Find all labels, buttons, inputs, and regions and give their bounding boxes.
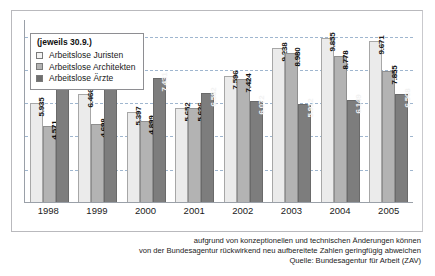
bar-value-label: 5.935 [36,98,47,117]
footnote-line-3: Quelle: Bundesagentur für Arbeit (ZAV) [11,256,421,266]
x-axis-labels: 19981999200020012002200320042005 [24,205,413,216]
x-axis-tick: 2003 [267,205,315,216]
x-axis-tick: 2005 [365,205,413,216]
footnote-line-2: von der Bundesagentur rückwirkend neu au… [11,246,421,256]
bar: 7.424 [237,79,250,203]
bar: 4.899 [140,121,153,203]
bar-value-label: 5.912 [305,98,316,117]
legend-item-aerzte: Arbeitslose Ärzte [36,73,135,83]
footnote-line-1: aufgrund von konzeptionellen und technis… [11,236,421,246]
bar: 7.596 [224,76,237,202]
bar-value-label: 9.855 [327,33,338,52]
bar-group: 5.6525.6366.582 [175,20,214,202]
x-axis-tick: 2001 [170,205,218,216]
bar: 5.912 [298,104,311,202]
bar-value-label: 6.508 [402,88,413,107]
bar: 6.582 [201,93,214,203]
bar-value-label: 6.582 [208,87,219,106]
bar: 9.855 [321,38,334,202]
chart-legend: (jeweils 30.9.) Arbeitslose Juristen Arb… [30,33,144,90]
x-axis-tick: 2004 [316,205,364,216]
chart-footnote: aufgrund von konzeptionellen und technis… [11,236,423,267]
bar: 5.636 [188,108,201,202]
chart-figure: 5.9354.5718.8026.4664.6988.1885.3974.899… [11,10,423,266]
bar: 8.980 [285,53,298,202]
x-axis-tick: 2002 [219,205,267,216]
bar: 6.149 [347,100,360,202]
legend-item-architekten: Arbeitslose Architekten [36,62,135,72]
legend-item-juristen: Arbeitslose Juristen [36,50,135,60]
x-axis-tick: 1998 [24,205,72,216]
legend-label-architekten: Arbeitslose Architekten [49,62,135,72]
legend-swatch-juristen [36,52,43,59]
bar: 7.431 [153,78,166,202]
bar: 4.571 [43,126,56,202]
bar: 6.466 [78,94,91,202]
bar-group: 9.2388.9805.912 [272,20,311,202]
chart-outer-frame: 5.9354.5718.8026.4664.6988.1885.3974.899… [11,10,423,232]
bar-value-label: 6.466 [85,89,96,108]
bar-value-label: 6.149 [353,94,364,113]
bar-value-label: 8.778 [340,50,351,69]
bar: 9.238 [272,48,285,202]
bar-group: 9.8558.7786.149 [321,20,360,202]
bar: 8.778 [334,56,347,202]
bar-value-label: 6.072 [256,95,267,114]
bar: 5.935 [30,103,43,202]
legend-title: (jeweils 30.9.) [37,37,135,47]
bar: 6.508 [395,94,408,202]
bar-value-label: 9.671 [376,36,387,55]
bar-value-label: 8.980 [292,47,303,66]
bar-value-label: 7.424 [243,73,254,92]
bar: 6.072 [250,101,263,202]
legend-swatch-architekten [36,63,43,70]
bar: 9.671 [369,41,382,202]
legend-swatch-aerzte [36,75,43,82]
x-axis-tick: 1999 [73,205,121,216]
bar-group: 7.5967.4246.072 [224,20,263,202]
bar: 5.397 [127,112,140,202]
bar-group: 9.6717.8556.508 [369,20,408,202]
legend-label-juristen: Arbeitslose Juristen [49,50,123,60]
x-axis-tick: 2000 [122,205,170,216]
bar: 5.652 [175,108,188,202]
bar: 4.698 [91,124,104,202]
bar-value-label: 7.431 [159,73,170,92]
bar: 7.855 [382,71,395,202]
legend-label-aerzte: Arbeitslose Ärzte [49,73,113,83]
bar-value-label: 7.855 [389,66,400,85]
